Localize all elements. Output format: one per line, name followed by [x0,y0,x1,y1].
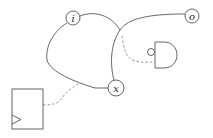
node-o[interactable]: o [185,9,199,23]
edge-dashed-from-flip-flop [43,84,78,105]
and-gate-body [155,42,177,68]
node-o-label: o [189,11,195,22]
node-x-label: x [113,83,119,94]
and-gate[interactable] [148,42,178,68]
node-i-label: i [71,13,74,24]
node-x[interactable]: x [108,80,124,96]
edge-i-to-crossing [80,14,120,30]
flip-flop[interactable] [12,89,43,129]
inverter-bubble-icon [148,49,155,56]
flip-flop-body [12,89,43,129]
edge-i-to-x [47,23,108,88]
circuit-diagram: i o x [0,0,213,138]
node-i[interactable]: i [66,11,80,25]
